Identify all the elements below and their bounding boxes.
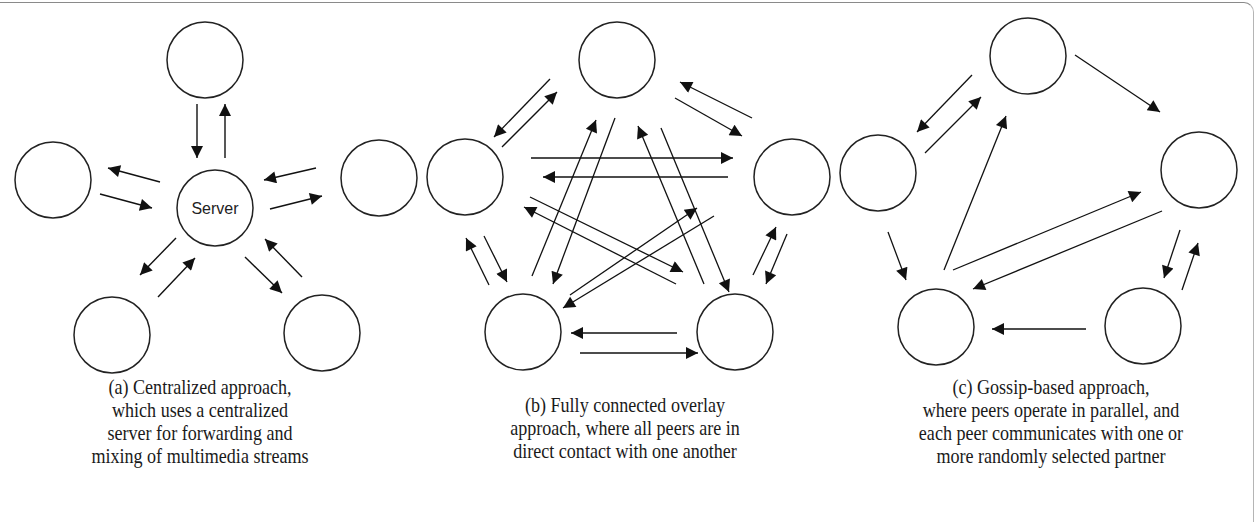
caption-a-line: server for forwarding and bbox=[28, 422, 372, 445]
peer-node-bottom-left bbox=[74, 297, 150, 373]
peer-node-top bbox=[990, 18, 1066, 94]
peer-node-bottom-left bbox=[898, 289, 974, 365]
caption-b-line: approach, where all peers are in bbox=[453, 417, 797, 440]
peer-node-right bbox=[341, 140, 417, 216]
caption-a-line: (a) Centralized approach, bbox=[28, 376, 372, 399]
peer-node-bottom-right bbox=[697, 294, 773, 370]
peer-node-right bbox=[754, 139, 830, 215]
panel-b-fully-connected bbox=[427, 22, 830, 370]
caption-c-line: (c) Gossip-based approach, bbox=[874, 376, 1228, 399]
caption-c-line: where peers operate in parallel, and bbox=[874, 399, 1228, 422]
panel-c-gossip-based bbox=[840, 18, 1237, 365]
caption-a: (a) Centralized approach, which uses a c… bbox=[28, 376, 372, 468]
caption-b: (b) Fully connected overlay approach, wh… bbox=[453, 394, 797, 463]
caption-a-line: which uses a centralized bbox=[28, 399, 372, 422]
arrows-b bbox=[466, 79, 787, 353]
peer-node-top bbox=[167, 22, 243, 98]
caption-c-line: each peer communicates with one or bbox=[874, 422, 1228, 445]
peer-node-bottom-right bbox=[284, 295, 360, 371]
peer-node-bottom-right bbox=[1105, 288, 1181, 364]
caption-a-line: mixing of multimedia streams bbox=[28, 445, 372, 468]
caption-b-line: direct contact with one another bbox=[453, 440, 797, 463]
peer-node-bottom-left bbox=[485, 294, 561, 370]
peer-node-top bbox=[579, 22, 655, 98]
caption-b-line: (b) Fully connected overlay bbox=[453, 394, 797, 417]
panel-a-centralized: Server bbox=[15, 22, 417, 373]
arrows-c bbox=[888, 55, 1198, 329]
peer-node-left bbox=[427, 139, 503, 215]
peer-node-right bbox=[1161, 132, 1237, 208]
caption-c: (c) Gossip-based approach, where peers o… bbox=[874, 376, 1228, 468]
peer-node-left bbox=[15, 142, 91, 218]
peer-node-left bbox=[840, 135, 916, 211]
server-label: Server bbox=[191, 200, 239, 217]
caption-c-line: more randomly selected partner bbox=[874, 445, 1228, 468]
